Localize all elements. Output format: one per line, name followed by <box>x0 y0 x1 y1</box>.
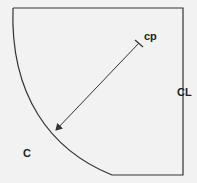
center-line-label: CL <box>177 86 192 98</box>
radius-arrow <box>56 43 139 130</box>
center-point-label: cp <box>144 30 157 42</box>
circumference-label: C <box>23 147 31 159</box>
pattern-outline <box>13 8 183 175</box>
pattern-diagram: cp CL C <box>0 0 197 183</box>
